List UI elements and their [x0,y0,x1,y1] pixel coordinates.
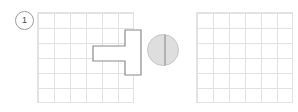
question-number-label: 1 [22,16,27,25]
sphere-figure [147,32,180,68]
sphere-icon [148,35,179,66]
diagram-canvas: 1 [0,0,298,112]
shape-overlay [37,12,134,103]
answer-grid-right[interactable] [196,12,293,103]
question-number-badge: 1 [15,11,34,30]
t-shaped-polygon [93,30,141,75]
